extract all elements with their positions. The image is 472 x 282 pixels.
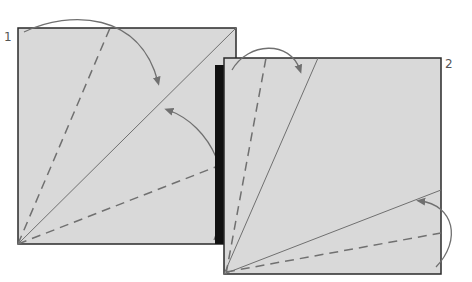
step-1-square	[18, 20, 236, 244]
step-number-2: 2	[445, 57, 453, 71]
shadow-edge	[215, 65, 224, 244]
step-2-square	[224, 48, 451, 274]
origami-diagram	[0, 0, 472, 282]
step-number-1: 1	[4, 30, 12, 44]
